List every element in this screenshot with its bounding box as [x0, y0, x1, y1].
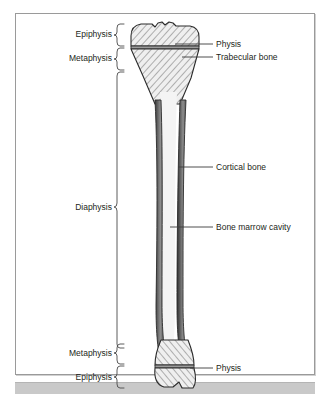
cortical-bone-right [177, 100, 188, 362]
label-diaphysis: Diaphysis [44, 203, 112, 212]
label-cortical-bone: Cortical bone [216, 163, 266, 172]
figure-page: Epiphysis Metaphysis Diaphysis Metaphysi… [0, 0, 331, 407]
label-physis-proximal: Physis [216, 40, 241, 49]
brace-epiphysis-proximal [114, 24, 124, 46]
distal-epiphysis-shape [155, 368, 196, 388]
proximal-epiphysis-shape [131, 22, 199, 46]
label-metaphysis-distal: Metaphysis [38, 349, 112, 358]
distal-metaphysis-shape [155, 340, 194, 365]
brace-metaphysis-distal [114, 344, 124, 364]
label-trabecular-bone: Trabecular bone [216, 53, 278, 62]
left-braces [114, 24, 124, 388]
label-physis-distal: Physis [216, 364, 241, 373]
label-bone-marrow-cavity: Bone marrow cavity [216, 223, 291, 232]
label-metaphysis-proximal: Metaphysis [38, 54, 112, 63]
bone-body [131, 22, 199, 388]
brace-epiphysis-distal [114, 366, 124, 388]
label-epiphysis-distal: Epiphysis [44, 373, 112, 382]
brace-metaphysis-proximal [114, 48, 124, 70]
brace-diaphysis [114, 72, 124, 348]
label-epiphysis-proximal: Epiphysis [44, 30, 112, 39]
